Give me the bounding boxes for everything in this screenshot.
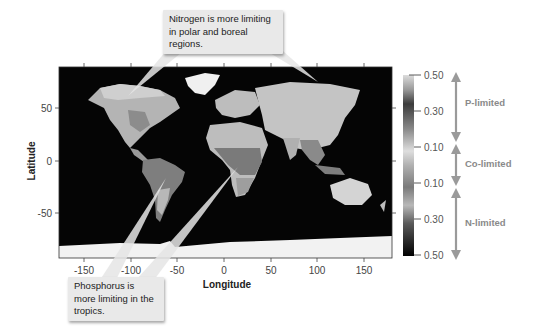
x-tick-label: 100 [309,265,326,276]
n-limited-label: N-limited [465,217,506,228]
x-tick-label: -100 [121,265,141,276]
nitrogen-callout: Nitrogen is more limiting in polar and b… [163,10,283,54]
x-tick-label: 0 [221,265,227,276]
phosphorus-callout: Phosphorus is more limiting in the tropi… [68,277,164,321]
p-limited-arrow [451,72,461,142]
colorbar-tick-label: 0.50 [424,250,444,261]
colorbar-tick-label: 0.10 [424,142,444,153]
x-tick-label: -50 [170,265,185,276]
x-axis-title: Longitude [203,279,252,290]
colorbar-tick-label: 0.30 [424,106,444,117]
colorbar-gradient [403,75,414,256]
co-limited-label: Co-limited [465,158,512,169]
co-limited-arrow [451,144,461,186]
limitation-arrows: P-limited Co-limited N-limited [451,72,512,260]
x-tick-label: 50 [265,265,277,276]
p-limited-label: P-limited [465,97,505,108]
colorbar-tick-label: 0.50 [424,70,444,81]
colorbar-tick-label: 0.30 [424,214,444,225]
y-axis-title: Latitude [26,141,37,180]
y-tick-label: 50 [41,103,53,114]
colorbar: 0.50 0.30 0.10 0.10 0.30 0.50 [403,70,444,261]
x-tick-label: -150 [74,265,94,276]
colorbar-tick-label: 0.10 [424,178,444,189]
y-tick-label: -50 [38,208,53,219]
x-tick-label: 150 [356,265,373,276]
map-plot [59,67,392,258]
n-limited-arrow [451,188,461,260]
y-tick-label: 0 [46,156,52,167]
